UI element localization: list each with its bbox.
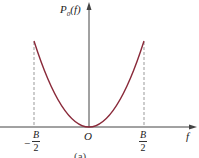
tick-left-sign: −	[24, 138, 30, 149]
origin-label: O	[84, 131, 92, 142]
caption-partial: (a)	[74, 150, 86, 158]
y-axis-label: P0(f)	[60, 4, 81, 18]
tick-left-fraction: B 2	[32, 130, 40, 153]
x-axis-arrow-icon	[189, 125, 197, 130]
y-axis-arrow-icon	[87, 2, 92, 10]
tick-right-fraction: B 2	[139, 130, 147, 153]
plot-area	[0, 0, 199, 158]
chart: P0(f) f O − B 2 B 2 (a)	[0, 0, 199, 158]
x-axis-label: f	[186, 131, 189, 142]
